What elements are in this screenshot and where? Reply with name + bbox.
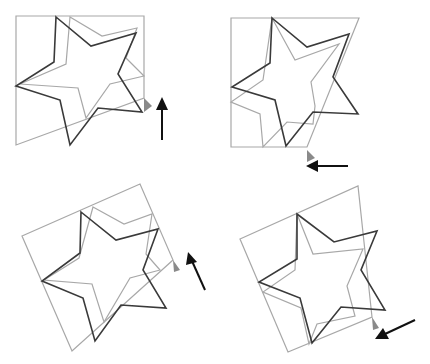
arrow-down-left-icon: [375, 320, 415, 339]
gray-star: [263, 214, 363, 344]
gray-star: [44, 207, 160, 322]
arrow-up-left-icon: [186, 252, 205, 290]
panel-top-left-figure: [0, 0, 215, 182]
panel-bottom-left: [0, 182, 215, 364]
triangle-marker-icon: [173, 260, 180, 272]
triangle-marker-icon: [144, 98, 152, 112]
triangle-marker-icon: [372, 317, 379, 330]
dark-star: [16, 17, 142, 145]
panel-top-right-figure: [215, 0, 430, 182]
panel-bottom-left-figure: [0, 182, 215, 364]
frame: [240, 186, 372, 352]
panel-bottom-right: [215, 182, 430, 364]
gray-star: [20, 17, 144, 118]
arrow-up-icon: [156, 97, 168, 140]
panel-top-left: [0, 0, 215, 182]
dark-star: [232, 18, 358, 146]
triangle-marker-icon: [307, 150, 315, 162]
arrow-left-icon: [306, 160, 348, 172]
dark-star: [259, 214, 385, 343]
gray-star: [231, 18, 339, 147]
panel-bottom-right-figure: [215, 182, 430, 364]
panel-top-right: [215, 0, 430, 182]
